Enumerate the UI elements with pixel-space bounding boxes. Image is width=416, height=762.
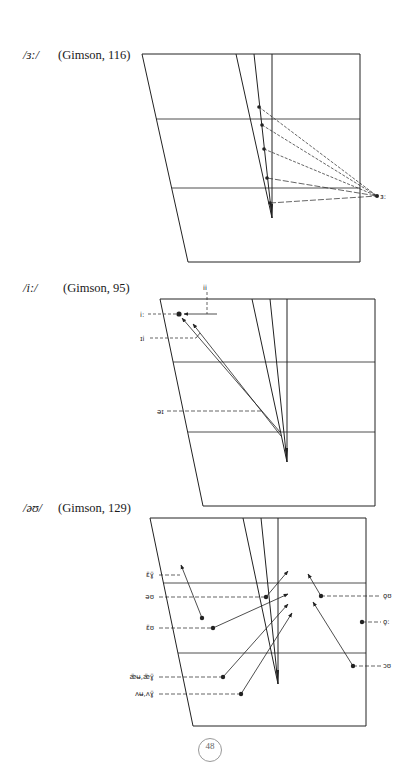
glide-line [270,196,377,203]
central-wedge-line [252,299,287,462]
glide-arrow [182,318,280,432]
vowel-dot [260,123,264,127]
vowel-label: ʌʉ,ʌɣ̈ [135,690,154,698]
quadrilateral-frame [142,54,360,262]
glide-arrow [181,565,202,618]
vowel-dot [265,176,269,180]
glide-arrow [213,594,288,628]
figure-3-vowel-quadrilateral: ɛ̈ɣ̈əʊɛ̈ʊæ̈ʉ,æ̈ɣ̈ʌʉ,ʌɣ̈o̞ʊo̞:ɔʊ [129,518,391,726]
glide-arrow [308,574,321,596]
vowel-label: ii [203,284,207,292]
glide-arrow [313,602,353,666]
vowel-dot [257,105,261,109]
figure-2-vowel-quadrilateral: i:iiɪiəɪ [140,284,375,506]
figure-1-vowel-quadrilateral: ɜ: [142,54,386,262]
vowel-label: ɪi [140,335,145,343]
vowel-label: əɪ [157,408,164,416]
vowel-dot [176,311,181,316]
vowel-label: ɔʊ [383,662,391,670]
quadrilateral-frame [150,518,366,726]
glide-arrow [193,324,281,436]
vowel-dot [268,201,272,205]
glide-line [259,107,377,196]
vowel-label: ɜ: [380,193,386,201]
vowel-label: əʊ [145,593,154,601]
vowel-label: i: [140,311,144,319]
central-wedge-line [270,299,287,462]
central-wedge-line [261,518,278,684]
vowel-label: o̞: [383,618,390,626]
page-number: 48 [198,738,222,762]
vowel-label: æ̈ʉ,æ̈ɣ̈ [129,673,154,681]
glide-arrow [266,571,288,597]
vowel-dot [360,620,364,624]
central-wedge-line [254,54,272,218]
glide-arrow [241,613,292,694]
vowel-dot [375,194,379,198]
central-wedge-line [236,54,272,218]
vowel-label: ɛ̈ɣ̈ [146,571,154,579]
vowel-dot [262,147,266,151]
vowel-label: o̞ʊ [383,592,392,600]
vowel-label: ɛ̈ʊ [146,624,154,632]
